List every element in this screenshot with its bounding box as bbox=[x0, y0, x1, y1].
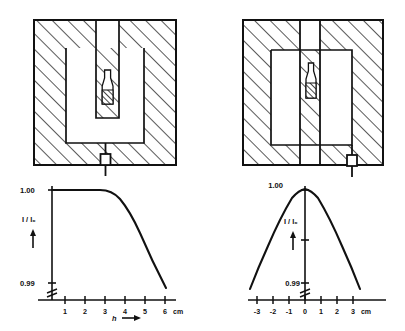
left-x-axis-title: h bbox=[112, 314, 117, 323]
left-xtick-label-3: 4 bbox=[123, 307, 127, 316]
right-xtick-label-3: 0 bbox=[303, 307, 307, 316]
left-ylabel-099: 0.99 bbox=[20, 279, 35, 288]
right-xtick-label-6: 3 bbox=[351, 307, 355, 316]
left-y-axis-title: I / I₀ bbox=[22, 215, 36, 224]
left-ylabel-one: 1.00 bbox=[20, 186, 35, 195]
left-xtick-label-2: 3 bbox=[103, 307, 107, 316]
left-xtick-label-4: 5 bbox=[143, 307, 147, 316]
scientific-figure: 1.00 0.99 I / I₀ 1 2 3 4 5 6 cm h bbox=[0, 0, 405, 331]
right-chart: 1.00 0.99 I / I₀ -3 -2 -1 0 1 2 3 cm bbox=[248, 181, 386, 316]
left-xtick-label-1: 2 bbox=[83, 307, 87, 316]
left-xtick-label-5: 6 bbox=[163, 307, 167, 316]
left-chart: 1.00 0.99 I / I₀ 1 2 3 4 5 6 cm h bbox=[20, 186, 183, 323]
right-xtick-label-5: 2 bbox=[335, 307, 339, 316]
right-xtick-label-2: -1 bbox=[286, 307, 292, 316]
figure-canvas: 1.00 0.99 I / I₀ 1 2 3 4 5 6 cm h bbox=[0, 0, 405, 331]
right-connector-fitting bbox=[347, 155, 357, 166]
right-xtick-label-0: -3 bbox=[254, 307, 260, 316]
right-xtick-label-4: 1 bbox=[319, 307, 323, 316]
left-xtick-label-0: 1 bbox=[63, 307, 67, 316]
right-y-axis-title: I / I₀ bbox=[284, 217, 298, 226]
right-ylabel-one: 1.00 bbox=[268, 181, 283, 190]
right-diagram bbox=[243, 20, 383, 177]
left-diagram bbox=[34, 20, 176, 176]
left-x-unit: cm bbox=[173, 308, 183, 315]
right-x-unit: cm bbox=[361, 308, 371, 315]
right-ylabel-099: 0.99 bbox=[285, 279, 300, 288]
right-sample-content bbox=[306, 83, 316, 98]
left-curve bbox=[52, 190, 166, 288]
left-y-axis-arrow bbox=[30, 229, 36, 248]
right-y-axis-arrow bbox=[290, 231, 296, 250]
right-xtick-label-1: -2 bbox=[270, 307, 276, 316]
left-sample-content bbox=[102, 90, 113, 104]
left-connector-fitting bbox=[101, 154, 111, 165]
